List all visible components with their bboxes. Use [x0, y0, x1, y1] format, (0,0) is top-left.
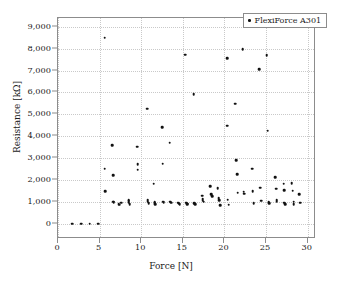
- data-point: [80, 222, 83, 225]
- x-tick-label: 10: [135, 243, 145, 251]
- data-point: [226, 57, 229, 60]
- data-point: [292, 203, 295, 206]
- data-point: [274, 176, 277, 179]
- data-point: [161, 126, 164, 129]
- y-tick-label: 7,000: [0, 65, 51, 73]
- data-point: [162, 201, 165, 204]
- data-point: [146, 107, 149, 110]
- y-tick-label: 6,000: [0, 87, 51, 95]
- data-point: [202, 200, 205, 203]
- data-point: [260, 199, 263, 202]
- data-point: [136, 145, 139, 148]
- data-point: [259, 186, 262, 189]
- y-tick-label: 8,000: [0, 44, 51, 52]
- y-tick-label: 9,000: [0, 22, 51, 30]
- data-point: [219, 204, 222, 207]
- data-point: [236, 173, 239, 176]
- data-point: [298, 193, 301, 196]
- data-point: [162, 162, 165, 165]
- data-point: [258, 68, 261, 71]
- data-point: [104, 190, 107, 193]
- data-point: [137, 163, 140, 166]
- data-point: [266, 54, 269, 57]
- data-point: [186, 203, 189, 206]
- data-point: [194, 203, 197, 206]
- y-gridline: [58, 71, 314, 72]
- y-gridline: [58, 158, 314, 159]
- data-point: [268, 202, 271, 205]
- data-point: [235, 159, 238, 162]
- data-point: [154, 203, 157, 206]
- x-tick-mark: [265, 238, 266, 243]
- x-gridline: [224, 18, 225, 237]
- x-tick-label: 30: [301, 243, 311, 251]
- x-tick-label: 25: [260, 243, 270, 251]
- data-point: [266, 129, 269, 132]
- y-gridline: [58, 114, 314, 115]
- y-gridline: [58, 180, 314, 181]
- data-point: [226, 198, 229, 201]
- data-point: [251, 167, 254, 170]
- data-point: [282, 182, 285, 185]
- data-point: [88, 222, 91, 225]
- data-point: [103, 167, 106, 170]
- data-point: [283, 189, 286, 192]
- x-gridline: [308, 18, 309, 237]
- y-gridline: [58, 49, 314, 50]
- x-gridline: [183, 18, 184, 237]
- y-tick-label: 4,000: [0, 131, 51, 139]
- y-tick-label: 1,000: [0, 197, 51, 205]
- data-point: [211, 195, 214, 198]
- data-point: [112, 174, 115, 177]
- data-point: [152, 182, 155, 185]
- data-point: [218, 199, 221, 202]
- x-tick-mark: [140, 238, 141, 243]
- data-point: [103, 36, 106, 39]
- y-tick-label: 0: [0, 219, 51, 227]
- legend-marker-icon: [248, 19, 251, 22]
- data-point: [111, 144, 114, 147]
- x-tick-label: 20: [218, 243, 228, 251]
- x-tick-label: 15: [177, 243, 187, 251]
- chart-legend: FlexiForce A301: [243, 13, 327, 28]
- data-point: [227, 204, 230, 207]
- data-point: [226, 124, 229, 127]
- data-point: [97, 222, 100, 225]
- x-tick-label: 5: [96, 243, 101, 251]
- plot-area: [57, 17, 315, 238]
- data-point: [243, 192, 246, 195]
- data-point: [71, 222, 74, 225]
- data-point: [216, 187, 219, 190]
- data-point: [241, 48, 244, 51]
- data-point: [170, 201, 173, 204]
- data-point: [251, 190, 254, 193]
- data-point: [291, 182, 294, 185]
- data-point: [299, 201, 302, 204]
- y-tick-label: 3,000: [0, 153, 51, 161]
- x-tick-mark: [182, 238, 183, 243]
- data-point: [234, 102, 237, 105]
- data-point: [284, 203, 287, 206]
- data-point: [252, 202, 255, 205]
- legend-label: FlexiForce A301: [255, 16, 321, 25]
- data-point: [168, 141, 171, 144]
- data-point: [192, 93, 195, 96]
- x-axis-label: Force [N]: [0, 261, 342, 271]
- data-point: [275, 187, 278, 190]
- data-point: [201, 194, 204, 197]
- data-point: [209, 185, 212, 188]
- data-point: [178, 203, 181, 206]
- data-point: [291, 190, 294, 193]
- x-tick-mark: [223, 238, 224, 243]
- x-tick-mark: [57, 238, 58, 243]
- data-point: [137, 168, 140, 171]
- x-tick-mark: [99, 238, 100, 243]
- x-gridline: [266, 18, 267, 237]
- data-point: [112, 201, 115, 204]
- y-gridline: [58, 92, 314, 93]
- x-gridline: [141, 18, 142, 237]
- data-point: [147, 202, 150, 205]
- data-point: [120, 202, 123, 205]
- scatter-chart-figure: 05101520253001,0002,0003,0004,0005,0006,…: [0, 0, 342, 294]
- y-tick-label: 5,000: [0, 109, 51, 117]
